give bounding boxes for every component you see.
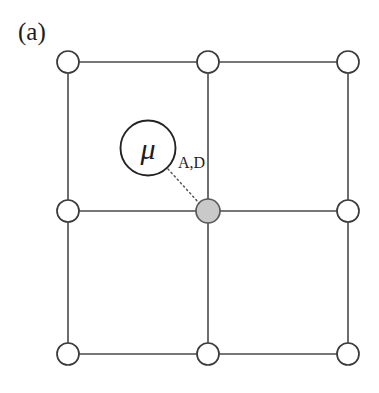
muon-symbol: μ [139,132,155,165]
lattice-node [337,200,359,222]
figure-container: (a) [0,0,379,393]
interaction-label: A,D [178,154,205,171]
lattice-node [57,343,79,365]
lattice-node [197,51,219,73]
lattice-diagram: (a) [0,0,379,393]
lattice-node [57,51,79,73]
panel-label: (a) [18,18,46,46]
lattice-node [197,343,219,365]
lattice-node [57,200,79,222]
lattice-node [337,343,359,365]
lattice-node [337,51,359,73]
